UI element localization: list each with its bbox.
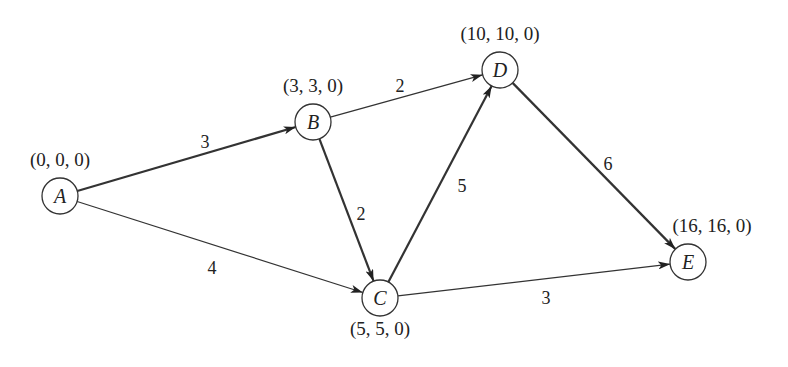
- node-label: B: [307, 111, 319, 133]
- edge-weight-b-c: 2: [357, 204, 366, 224]
- node-coord-label: (3, 3, 0): [283, 75, 343, 97]
- node-b: B(3, 3, 0): [283, 75, 343, 140]
- node-a: A(0, 0, 0): [30, 149, 90, 214]
- edge-weight-d-e: 6: [604, 154, 613, 174]
- edge-a-c: [77, 201, 363, 292]
- node-c: C(5, 5, 0): [350, 280, 410, 340]
- edge-b-d: [330, 75, 482, 117]
- edge-weight-b-d: 2: [396, 76, 405, 96]
- edge-weight-c-e: 3: [542, 288, 551, 308]
- edge-weight-a-c: 4: [208, 258, 217, 278]
- edge-c-e: [398, 264, 670, 296]
- node-coord-label: (10, 10, 0): [460, 23, 539, 45]
- node-label: E: [681, 251, 694, 273]
- node-label: D: [492, 59, 508, 81]
- edge-weight-c-d: 5: [458, 176, 467, 196]
- node-coord-label: (0, 0, 0): [30, 149, 90, 171]
- edge-a-b: [77, 127, 295, 191]
- nodes-layer: A(0, 0, 0)B(3, 3, 0)C(5, 5, 0)D(10, 10, …: [30, 23, 752, 340]
- node-e: E(16, 16, 0): [670, 215, 752, 280]
- edge-weight-a-b: 3: [201, 132, 210, 152]
- node-coord-label: (16, 16, 0): [672, 215, 751, 237]
- node-label: A: [52, 185, 67, 207]
- edge-d-e: [513, 83, 676, 249]
- graph-diagram: 3422563 A(0, 0, 0)B(3, 3, 0)C(5, 5, 0)D(…: [0, 0, 788, 367]
- edge-c-d: [388, 86, 491, 282]
- edges-layer: 3422563: [77, 75, 675, 308]
- node-coord-label: (5, 5, 0): [350, 318, 410, 340]
- node-label: C: [373, 287, 387, 309]
